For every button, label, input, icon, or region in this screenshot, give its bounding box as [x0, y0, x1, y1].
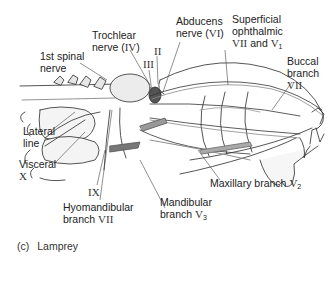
label-line: Abducens [176, 15, 224, 27]
caption-title: Lamprey [37, 240, 78, 252]
label-text: branch [63, 213, 98, 225]
label-line: branch V3 [160, 208, 212, 224]
label-visceral-x: Visceral X [19, 158, 56, 182]
roman-numeral: VI [209, 27, 221, 39]
caption-letter: (c) [17, 240, 29, 252]
label-line: Buccal [287, 55, 319, 67]
roman-numeral: V [195, 208, 203, 220]
label-line: Hyomandibular [63, 201, 134, 213]
label-line: Visceral [19, 158, 56, 170]
leader-optic [157, 56, 158, 84]
subscript: 2 [297, 183, 301, 190]
figure-caption: (c)Lamprey [17, 240, 78, 252]
label-line: branch VII [63, 213, 134, 225]
label-buccal-branch: Buccal branch VII [287, 55, 319, 91]
label-lateral-line: Lateral line [23, 125, 55, 149]
label-line: 1st spinal [40, 50, 84, 62]
label-text: nerve ( [176, 27, 209, 39]
subscript: 1 [279, 43, 283, 50]
label-line: Lateral [23, 125, 55, 137]
label-hyomandibular-branch: Hyomandibular branch VII [63, 201, 134, 225]
roman-numeral: III [143, 58, 154, 70]
label-line: Superficial [232, 13, 283, 25]
label-text: Maxillary branch [210, 177, 289, 189]
roman-numeral: V [271, 37, 279, 49]
lamprey-cranial-nerve-diagram: 1st spinal nerve Trochlear nerve (IV) II… [0, 0, 335, 282]
label-text: ) [220, 27, 224, 39]
label-line: Trochlear [92, 29, 140, 41]
label-oculomotor-iii: III [143, 58, 154, 70]
label-trochlear-nerve: Trochlear nerve (IV) [92, 29, 140, 53]
label-superficial-ophthalmic: Superficial ophthalmic VII and V1 [232, 13, 283, 53]
roman-numeral: IV [125, 41, 137, 53]
label-maxillary-branch: Maxillary branch V2 [210, 177, 301, 193]
label-text: ) [136, 41, 140, 53]
label-line: Mandibular [160, 196, 212, 208]
label-glossopharyngeal-ix: IX [88, 186, 100, 198]
roman-numeral: VII [98, 213, 113, 225]
label-line: ophthalmic [232, 25, 283, 37]
leader-abducens [163, 42, 180, 92]
roman-numeral: X [19, 170, 56, 182]
subscript: 3 [203, 214, 207, 221]
roman-numeral: VII [232, 37, 247, 49]
label-line: nerve [40, 62, 84, 74]
label-abducens-nerve: Abducens nerve (VI) [176, 15, 224, 39]
label-optic-ii: II [154, 45, 161, 57]
roman-numeral: II [154, 45, 161, 57]
label-text: branch [160, 208, 195, 220]
roman-numeral: VII [287, 79, 319, 91]
label-line: line [23, 137, 55, 149]
label-line: nerve (IV) [92, 41, 140, 53]
label-line: branch [287, 67, 319, 79]
label-text: nerve ( [92, 41, 125, 53]
label-line: nerve (VI) [176, 27, 224, 39]
leader-superficial-ophthalmic [225, 50, 228, 85]
leader-hyomandibular [100, 110, 112, 200]
label-text: and [247, 37, 270, 49]
label-mandibular-branch: Mandibular branch V3 [160, 196, 212, 224]
label-line: VII and V1 [232, 37, 283, 53]
roman-numeral: IX [88, 186, 100, 198]
label-first-spinal-nerve: 1st spinal nerve [40, 50, 84, 74]
